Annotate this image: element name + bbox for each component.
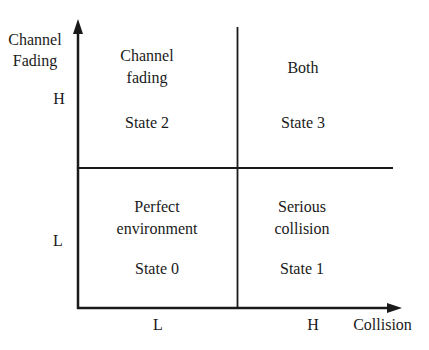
x-axis-title: Collision xyxy=(345,315,420,335)
quadrant-state1-line2: collision xyxy=(262,219,342,239)
quadrant-state0-line1: Perfect xyxy=(107,197,207,217)
quadrant-state2-label: State 2 xyxy=(112,113,182,133)
quadrant-state3-label: State 3 xyxy=(268,113,338,133)
quadrant-state3-line1: Both xyxy=(268,58,338,78)
quadrant-state0-line2: environment xyxy=(107,219,207,239)
quadrant-state1-line1: Serious xyxy=(262,197,342,217)
quadrant-state2-line2: fading xyxy=(112,68,182,88)
x-axis-low-label: L xyxy=(148,315,168,335)
y-axis-title-line1: Channel xyxy=(0,30,70,50)
quadrant-state1-label: State 1 xyxy=(262,259,342,279)
y-axis-low-label: L xyxy=(48,231,68,251)
x-axis-high-label: H xyxy=(303,315,323,335)
quadrant-state2-line1: Channel xyxy=(112,46,182,66)
y-axis-title-line2: Fading xyxy=(0,51,70,71)
y-axis-arrow-icon xyxy=(73,19,83,34)
x-axis-arrow-icon xyxy=(387,303,402,313)
quadrant-state0-label: State 0 xyxy=(112,259,202,279)
y-axis-high-label: H xyxy=(49,89,69,109)
